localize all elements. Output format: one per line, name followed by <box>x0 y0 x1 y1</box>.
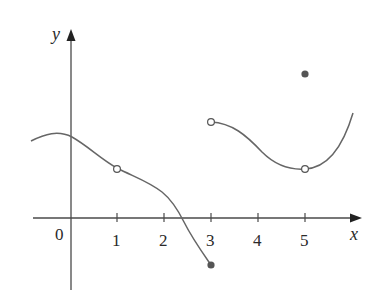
open-point-x1 <box>114 166 121 173</box>
tick-label-2: 2 <box>159 231 168 250</box>
x-axis-arrow-icon <box>350 214 362 223</box>
curve-piece-2 <box>211 113 353 169</box>
tick-label-1: 1 <box>112 231 121 250</box>
tick-label-5: 5 <box>300 231 309 250</box>
tick-label-4: 4 <box>253 231 262 250</box>
curve-piece-1 <box>31 133 211 265</box>
y-axis-label: y <box>50 24 60 44</box>
open-point-x5 <box>302 166 309 173</box>
tick-label-3: 3 <box>206 231 215 250</box>
open-point-x3-high <box>208 119 215 126</box>
origin-label: 0 <box>55 225 64 244</box>
x-axis-label: x <box>349 224 358 244</box>
filled-point-x5 <box>301 70 308 77</box>
y-axis-arrow-icon <box>67 29 76 41</box>
function-graph: 0 1 2 3 4 5 x y <box>0 0 387 304</box>
filled-point-x3-low <box>207 261 214 268</box>
